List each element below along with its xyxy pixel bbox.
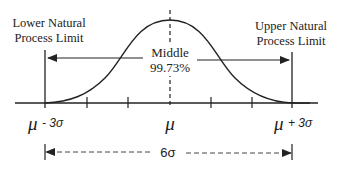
lower-limit-label-line2: Process Limit: [14, 31, 84, 45]
middle-percent: 99.73%: [150, 60, 190, 75]
lower-limit-label-line1: Lower Natural: [12, 16, 86, 30]
plus-3-sigma: + 3σ: [288, 116, 313, 130]
upper-limit-label-line2: Process Limit: [256, 34, 326, 48]
normal-distribution-diagram: Lower Natural Process Limit Upper Natura…: [0, 0, 338, 170]
mu-minus-symbol: μ: [27, 113, 38, 134]
mu-center-symbol: μ: [164, 113, 175, 134]
six-sigma-label: 6σ: [160, 145, 175, 160]
upper-limit-label-line1: Upper Natural: [255, 19, 327, 33]
minus-3-sigma: - 3σ: [42, 116, 64, 130]
mu-plus-symbol: μ: [273, 113, 284, 134]
middle-label: Middle: [151, 45, 189, 60]
